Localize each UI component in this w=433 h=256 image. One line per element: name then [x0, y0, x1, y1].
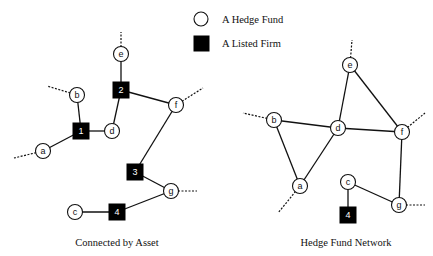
hedge-fund-node-c: c — [341, 175, 356, 190]
edge-f-g — [399, 132, 402, 205]
node-label: 1 — [78, 126, 83, 136]
hedge-fund-node-f: f — [169, 98, 184, 113]
node-label: g — [168, 186, 173, 196]
node-label: d — [335, 123, 340, 133]
node-label: e — [347, 60, 352, 70]
edge-b-a — [274, 120, 300, 186]
hedge-fund-node-d: d — [105, 124, 120, 139]
edge-f-3 — [135, 105, 176, 172]
hedge-fund-node-c: c — [68, 205, 83, 220]
listed-firm-node-1: 1 — [73, 123, 89, 139]
edge-d-f — [338, 128, 402, 132]
node-label: e — [118, 49, 123, 59]
hedge-fund-node-b: b — [70, 88, 85, 103]
left-graph: e2bf1da3gc4 Connected by Asset — [14, 32, 203, 248]
node-label: c — [346, 177, 351, 187]
node-label: 3 — [132, 167, 137, 177]
node-label: b — [271, 115, 276, 125]
node-label: c — [73, 207, 78, 217]
listed-firm-node-4: 4 — [340, 207, 356, 223]
node-label: g — [396, 200, 401, 210]
hedge-fund-node-d: d — [331, 121, 346, 136]
hedge-fund-node-g: g — [392, 198, 407, 213]
hedge-fund-node-b: b — [267, 113, 282, 128]
node-label: d — [109, 126, 114, 136]
hedge-fund-node-e: e — [114, 47, 129, 62]
edge-a-d — [300, 128, 338, 186]
edge-e-d — [338, 65, 350, 128]
node-label: 4 — [345, 210, 350, 220]
left-nodes: e2bf1da3gc4 — [36, 47, 184, 221]
hedge-fund-node-e: e — [343, 58, 358, 73]
left-graph-caption: Connected by Asset — [75, 237, 158, 248]
edge-c-g — [348, 182, 399, 205]
right-graph-caption: Hedge Fund Network — [301, 237, 393, 248]
hedge-fund-legend-icon — [194, 12, 208, 26]
diagram-canvas: A Hedge Fund A Listed Firm e2bf1da3gc4 C… — [0, 0, 433, 256]
listed-firm-legend-icon — [194, 36, 209, 51]
listed-firm-node-3: 3 — [127, 164, 143, 180]
legend-label-hedge-fund: A Hedge Fund — [222, 14, 284, 25]
right-nodes: ebdfacg4 — [267, 58, 410, 224]
hedge-fund-node-g: g — [164, 184, 179, 199]
right-graph: ebdfacg4 Hedge Fund Network — [243, 40, 425, 248]
node-label: a — [40, 146, 45, 156]
node-label: 4 — [114, 207, 119, 217]
node-label: 2 — [118, 85, 123, 95]
hedge-fund-node-a: a — [293, 179, 308, 194]
node-label: a — [297, 181, 302, 191]
hedge-fund-node-a: a — [36, 144, 51, 159]
node-label: b — [74, 90, 79, 100]
edge-b-d — [274, 120, 338, 128]
listed-firm-node-2: 2 — [113, 82, 129, 98]
legend-label-listed-firm: A Listed Firm — [222, 38, 281, 49]
edge-e-f — [350, 65, 402, 132]
legend: A Hedge Fund A Listed Firm — [194, 12, 284, 51]
hedge-fund-node-f: f — [395, 125, 410, 140]
listed-firm-node-4: 4 — [109, 204, 125, 220]
right-edges — [274, 65, 402, 215]
